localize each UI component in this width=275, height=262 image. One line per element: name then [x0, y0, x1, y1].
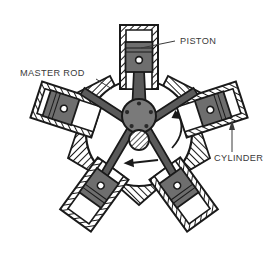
crankshaft-journal [129, 130, 149, 150]
label-piston: PISTON [180, 36, 216, 46]
radial-engine-diagram: PISTON MASTER ROD CYLINDER [0, 0, 275, 262]
diagram-canvas: PISTON MASTER ROD CYLINDER [0, 0, 275, 262]
crankpin-hub [122, 99, 156, 133]
label-master-rod: MASTER ROD [20, 68, 85, 78]
label-cylinder: CYLINDER [214, 153, 263, 163]
